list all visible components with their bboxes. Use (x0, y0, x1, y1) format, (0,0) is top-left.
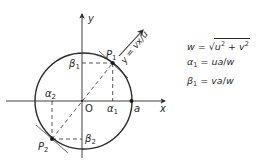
p1-label: P1 (106, 49, 117, 62)
y-axis-label: y (87, 13, 95, 24)
equations-block: w = √u2 + v2 α1 = ua/w β1 = va/w (187, 38, 250, 92)
equation-alpha1: α1 = ua/w (187, 54, 250, 73)
point-a (130, 99, 134, 103)
x-axis-label: x (159, 103, 166, 114)
p2-label: P2 (38, 141, 49, 154)
point-p2 (50, 137, 54, 141)
beta1-label: β1 (68, 58, 80, 71)
direction-line-label: y = vx/u (118, 29, 150, 66)
origin-label: O (85, 103, 93, 114)
alpha2-label: α2 (45, 88, 56, 101)
equation-beta1: β1 = va/w (187, 73, 250, 92)
origin-point (81, 100, 83, 102)
beta2-label: β2 (84, 133, 96, 146)
a-label: a (134, 103, 140, 114)
alpha1-label: α1 (107, 103, 118, 116)
equation-w: w = √u2 + v2 (187, 38, 250, 54)
